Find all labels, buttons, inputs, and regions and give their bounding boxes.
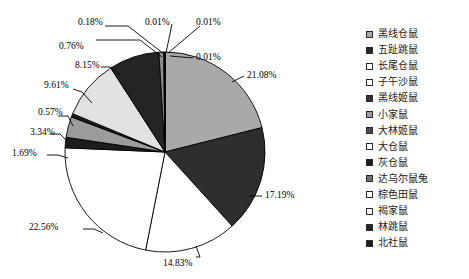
slice-label-0-76: 0.76% xyxy=(59,41,84,51)
slice-label-21-08: 21.08% xyxy=(247,70,276,80)
legend-item-label: 达乌尔鼠兔 xyxy=(378,174,428,184)
legend-item[interactable]: 北社鼠 xyxy=(366,235,466,251)
legend-swatch-icon xyxy=(366,159,373,166)
slice-label-14-83: 14.83% xyxy=(163,258,192,268)
legend-swatch-icon xyxy=(366,31,373,38)
legend-item[interactable]: 长尾仓鼠 xyxy=(366,58,466,74)
legend-item-label: 子午沙鼠 xyxy=(378,77,418,87)
legend-swatch-icon xyxy=(366,143,373,150)
legend-item-label: 北社鼠 xyxy=(378,238,408,248)
legend-item-label: 林跳鼠 xyxy=(378,222,408,232)
pie-chart-area: 21.08% 17.19% 14.83% 22.56% 1.69% 3.34% … xyxy=(0,0,350,279)
leader-line xyxy=(196,246,200,257)
legend-swatch-icon xyxy=(366,63,373,70)
slice-label-9-61: 9.61% xyxy=(44,80,69,90)
slice-label-0-01-b: 0.01% xyxy=(196,17,221,27)
legend-item-label: 小家鼠 xyxy=(378,110,408,120)
legend-item[interactable]: 大仓鼠 xyxy=(366,139,466,155)
slice-label-17-19: 17.19% xyxy=(265,190,294,200)
legend-swatch-icon xyxy=(366,175,373,182)
legend-swatch-icon xyxy=(366,47,373,54)
slice-label-3-34: 3.34% xyxy=(30,127,55,137)
leader-line xyxy=(166,24,172,53)
slice-label-22-56: 22.56% xyxy=(29,222,58,232)
legend-item[interactable]: 棕色田鼠 xyxy=(366,187,466,203)
legend-swatch-icon xyxy=(366,127,373,134)
slice-label-0-01-a: 0.01% xyxy=(145,17,170,27)
legend-item[interactable]: 黑线姬鼠 xyxy=(366,90,466,106)
slice-label-0-18: 0.18% xyxy=(78,17,103,27)
legend-item[interactable]: 大林姬鼠 xyxy=(366,123,466,139)
legend-item-label: 长尾仓鼠 xyxy=(378,61,418,71)
legend-item-label: 五趾跳鼠 xyxy=(378,45,418,55)
chart-screenshot: 21.08% 17.19% 14.83% 22.56% 1.69% 3.34% … xyxy=(0,0,469,279)
legend-item-label: 棕色田鼠 xyxy=(378,190,418,200)
legend-item-label: 大林姬鼠 xyxy=(378,126,418,136)
legend-swatch-icon xyxy=(366,79,373,86)
legend-item[interactable]: 五趾跳鼠 xyxy=(366,42,466,58)
legend-item[interactable]: 褐家鼠 xyxy=(366,203,466,219)
legend-swatch-icon xyxy=(366,224,373,231)
legend-item[interactable]: 黑线仓鼠 xyxy=(366,26,466,42)
legend-swatch-icon xyxy=(366,111,373,118)
pie-slices-group xyxy=(65,52,265,252)
legend-item[interactable]: 灰仓鼠 xyxy=(366,155,466,171)
slice-label-0-57: 0.57% xyxy=(38,107,63,117)
slice-label-1-69: 1.69% xyxy=(12,148,37,158)
legend-item-label: 黑线仓鼠 xyxy=(378,29,418,39)
legend-item[interactable]: 小家鼠 xyxy=(366,106,466,122)
legend-item-label: 大仓鼠 xyxy=(378,142,408,152)
legend-item-label: 褐家鼠 xyxy=(378,206,408,216)
slice-label-8-15: 8.15% xyxy=(75,60,100,70)
legend-swatch-icon xyxy=(366,240,373,247)
legend-swatch-icon xyxy=(366,95,373,102)
legend-item-label: 灰仓鼠 xyxy=(378,158,408,168)
slice-label-0-01-c: 0.01% xyxy=(196,52,221,62)
leader-line xyxy=(168,26,200,53)
pie-chart-graphic xyxy=(0,0,350,279)
legend-item-label: 黑线姬鼠 xyxy=(378,93,418,103)
legend-swatch-icon xyxy=(366,191,373,198)
leader-line xyxy=(83,229,103,233)
legend-swatch-icon xyxy=(366,208,373,215)
legend-item[interactable]: 达乌尔鼠兔 xyxy=(366,171,466,187)
legend-item[interactable]: 子午沙鼠 xyxy=(366,74,466,90)
legend-item[interactable]: 林跳鼠 xyxy=(366,219,466,235)
chart-legend: 黑线仓鼠五趾跳鼠长尾仓鼠子午沙鼠黑线姬鼠小家鼠大林姬鼠大仓鼠灰仓鼠达乌尔鼠兔棕色… xyxy=(366,26,466,251)
